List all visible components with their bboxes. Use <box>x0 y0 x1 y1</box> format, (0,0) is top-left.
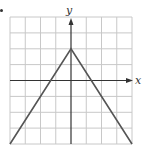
x-axis: x <box>10 74 142 87</box>
y-axis-label: y <box>65 4 73 17</box>
graph: x y <box>0 0 150 154</box>
y-axis: y <box>65 4 74 144</box>
x-axis-label: x <box>135 74 142 87</box>
y-axis-arrow-icon <box>69 18 74 25</box>
